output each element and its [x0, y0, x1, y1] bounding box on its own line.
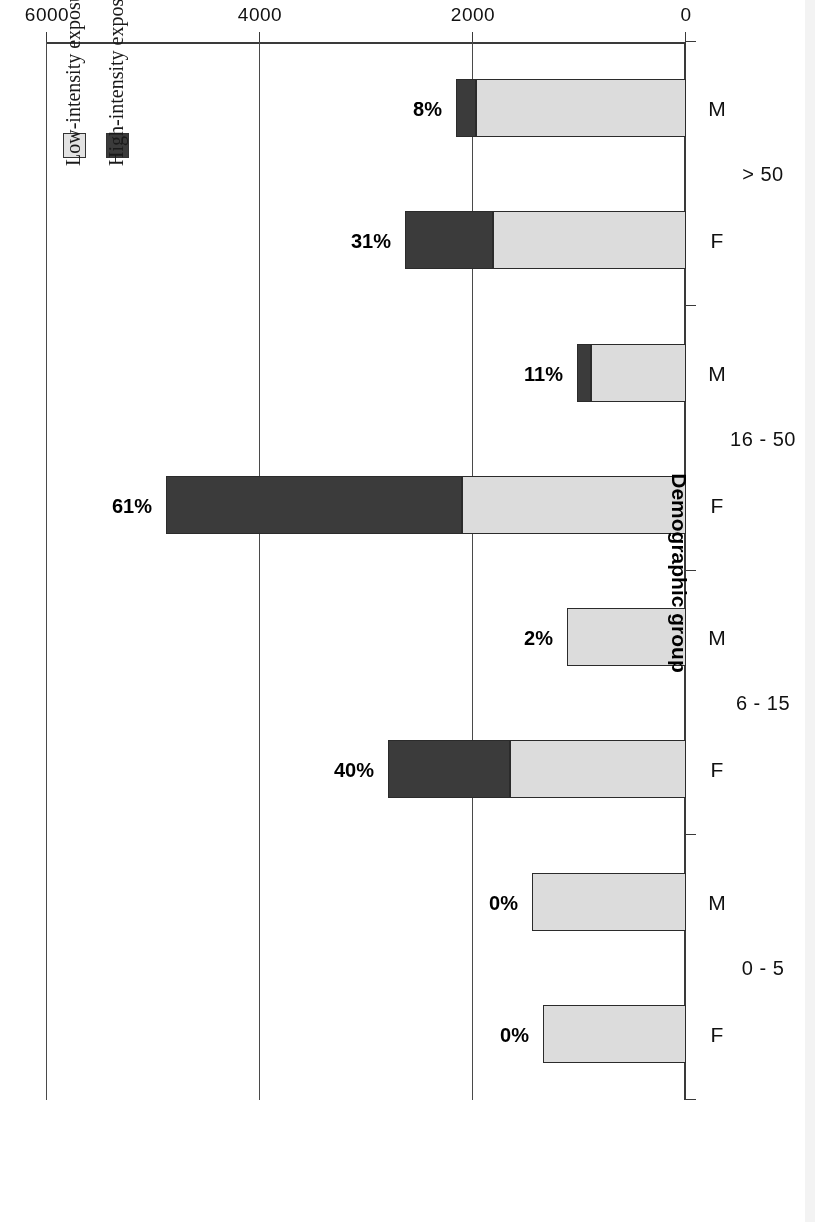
bar-value-label: 61% [112, 495, 152, 518]
bar [543, 1005, 686, 1063]
bar-segment-high-intensity [405, 211, 493, 269]
category-label-m-1: M [700, 891, 734, 915]
bar-value-label: 11% [524, 363, 563, 386]
bar [388, 740, 686, 798]
x-axis-title: Demographic group [667, 473, 691, 673]
bar-segment-high-intensity [456, 79, 476, 137]
bar-segment-high-intensity [166, 476, 462, 534]
value-axis-tick-label: 2000 [443, 4, 503, 26]
plot-area: 0200040006000 0%0%40%2%61%11%31%8% FMFMF… [47, 42, 686, 1100]
value-axis-tick [472, 32, 473, 42]
bar [456, 79, 686, 137]
value-axis-tick [259, 32, 260, 42]
bar-value-label: 0% [500, 1024, 529, 1047]
group-label-16-50: 16 - 50 [718, 428, 808, 451]
bar-value-label: 8% [413, 98, 442, 121]
category-label-f-2: F [700, 758, 734, 782]
bar-segment-low-intensity [510, 740, 686, 798]
bar-segment-low-intensity [493, 211, 686, 269]
bar [405, 211, 686, 269]
value-axis-tick-label: 4000 [230, 4, 290, 26]
legend-label-low-intensity: Low-intensity exposure [62, 0, 85, 166]
category-axis-tick [686, 305, 696, 306]
bar-segment-low-intensity [543, 1005, 686, 1063]
bar-value-label: 40% [334, 759, 374, 782]
bar-segment-low-intensity [532, 873, 686, 931]
group-label-6-15: 6 - 15 [718, 692, 808, 715]
bar-segment-low-intensity [462, 476, 686, 534]
category-label-m-7: M [700, 97, 734, 121]
gridline [472, 42, 473, 1100]
group-label-0-5: 0 - 5 [718, 957, 808, 980]
category-label-m-5: M [700, 362, 734, 386]
bar [577, 344, 686, 402]
gridline [259, 42, 260, 1100]
gridline [46, 42, 47, 1100]
value-axis-tick-label: 0 [656, 4, 716, 26]
category-axis-tick [686, 1099, 696, 1100]
bar [166, 476, 686, 534]
bar-value-label: 0% [489, 892, 518, 915]
bar-segment-high-intensity [388, 740, 510, 798]
category-label-f-4: F [700, 494, 734, 518]
chart-figure: 0200040006000 0%0%40%2%61%11%31%8% FMFMF… [0, 0, 815, 1222]
bar-segment-high-intensity [577, 344, 591, 402]
bar [532, 873, 686, 931]
category-axis-tick [686, 41, 696, 42]
value-axis-tick [46, 32, 47, 42]
bar-segment-low-intensity [476, 79, 686, 137]
category-label-f-6: F [700, 229, 734, 253]
category-label-m-3: M [700, 626, 734, 650]
category-axis-tick [686, 834, 696, 835]
group-label--50: > 50 [718, 163, 808, 186]
bar-value-label: 2% [524, 627, 553, 650]
value-axis-line [47, 42, 686, 44]
bar-value-label: 31% [351, 230, 391, 253]
category-label-f-0: F [700, 1023, 734, 1047]
bar-segment-low-intensity [591, 344, 686, 402]
legend-label-high-intensity: High-intensity exposure [105, 0, 128, 166]
